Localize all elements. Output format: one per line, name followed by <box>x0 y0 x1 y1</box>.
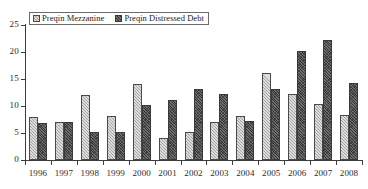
bar-mezzanine-2007 <box>314 104 323 160</box>
x-axis-tick-label-1997: 1997 <box>51 168 77 178</box>
x-axis-tick <box>336 161 337 165</box>
bar-distressed-debt-2006 <box>297 51 306 160</box>
x-axis-tick-label-1998: 1998 <box>77 168 103 178</box>
legend-swatch-distressed-debt <box>115 15 122 22</box>
bar-distressed-debt-1998 <box>90 132 99 160</box>
x-axis-tick <box>103 161 104 165</box>
bar-mezzanine-2002 <box>185 132 194 160</box>
bar-mezzanine-2008 <box>340 115 349 160</box>
bar-distressed-debt-2005 <box>271 89 280 160</box>
x-axis-tick-label-2006: 2006 <box>284 168 310 178</box>
bar-mezzanine-2003 <box>210 122 219 160</box>
x-axis-tick <box>155 161 156 165</box>
bar-distressed-debt-2004 <box>245 121 254 160</box>
bar-distressed-debt-1999 <box>116 132 125 160</box>
y-axis-tick-label: 15 <box>0 74 19 83</box>
x-axis-tick <box>362 161 363 165</box>
bar-mezzanine-1999 <box>107 116 116 160</box>
bar-distressed-debt-1997 <box>64 122 73 160</box>
x-axis-tick <box>284 161 285 165</box>
x-axis-tick-label-1996: 1996 <box>25 168 51 178</box>
legend-label-distressed-debt: Preqin Distressed Debt <box>124 14 203 23</box>
x-axis-tick-label-2005: 2005 <box>258 168 284 178</box>
x-axis-tick <box>181 161 182 165</box>
y-axis-tick-label: 20 <box>0 47 19 56</box>
legend-entry-mezzanine: Preqin Mezzanine <box>33 14 104 23</box>
bar-distressed-debt-2003 <box>219 94 228 160</box>
y-axis-tick-label: 0 <box>0 155 19 164</box>
x-axis-tick-label-2007: 2007 <box>310 168 336 178</box>
x-axis-tick-label-2008: 2008 <box>336 168 362 178</box>
bar-mezzanine-1996 <box>29 117 38 160</box>
bar-mezzanine-1998 <box>81 95 90 160</box>
bar-chart: 0510152025 19961997199819992000200120022… <box>0 0 368 189</box>
x-axis-tick-label-2002: 2002 <box>181 168 207 178</box>
y-axis-tick-label: 5 <box>0 128 19 137</box>
legend-swatch-mezzanine <box>33 15 40 22</box>
bar-mezzanine-2000 <box>133 84 142 160</box>
bar-distressed-debt-2007 <box>323 40 332 160</box>
legend: Preqin Mezzanine Preqin Distressed Debt <box>29 12 209 25</box>
bar-mezzanine-2006 <box>288 94 297 160</box>
bar-distressed-debt-2001 <box>168 100 177 160</box>
x-axis-tick-label-2001: 2001 <box>155 168 181 178</box>
bar-distressed-debt-2000 <box>142 105 151 160</box>
bar-distressed-debt-2008 <box>349 83 358 160</box>
x-axis-tick <box>129 161 130 165</box>
x-axis-tick <box>77 161 78 165</box>
x-axis-tick-label-1999: 1999 <box>103 168 129 178</box>
bar-mezzanine-2005 <box>262 73 271 160</box>
x-axis-tick <box>51 161 52 165</box>
x-axis-tick <box>25 161 26 165</box>
x-axis-tick-label-2004: 2004 <box>232 168 258 178</box>
x-axis-tick <box>232 161 233 165</box>
bar-mezzanine-2004 <box>236 116 245 160</box>
x-axis-tick <box>206 161 207 165</box>
bar-distressed-debt-1996 <box>38 123 47 160</box>
x-axis-line <box>25 160 363 161</box>
x-axis-tick <box>310 161 311 165</box>
bar-mezzanine-1997 <box>55 122 64 160</box>
x-axis-tick-label-2000: 2000 <box>129 168 155 178</box>
x-axis-tick <box>258 161 259 165</box>
y-axis-tick-label: 10 <box>0 101 19 110</box>
bar-distressed-debt-2002 <box>194 89 203 160</box>
x-axis-tick-label-2003: 2003 <box>206 168 232 178</box>
y-axis-tick-label: 25 <box>0 20 19 29</box>
plot-area <box>25 25 362 160</box>
legend-label-mezzanine: Preqin Mezzanine <box>42 14 104 23</box>
legend-entry-distressed-debt: Preqin Distressed Debt <box>115 14 203 23</box>
bar-mezzanine-2001 <box>159 138 168 160</box>
